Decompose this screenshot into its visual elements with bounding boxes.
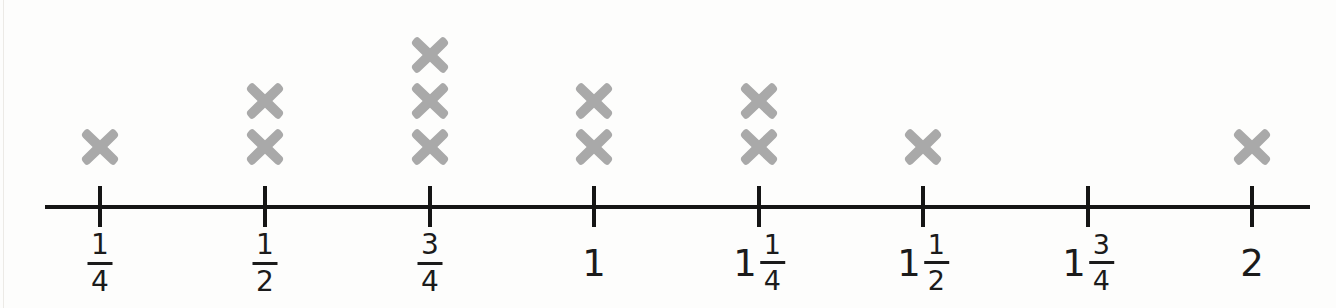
axis-tick-one-and-one-quarter — [757, 186, 761, 227]
fraction-denominator: 4 — [762, 266, 783, 294]
axis-label-one-and-one-quarter: 114 — [733, 231, 785, 294]
data-point-x-icon — [246, 82, 284, 120]
fraction-bar — [1089, 261, 1114, 264]
axis-label-three-quarters: 34 — [418, 231, 443, 296]
axis-label-one-quarter: 14 — [88, 231, 113, 296]
fraction-denominator: 4 — [419, 267, 441, 296]
data-point-x-icon — [904, 128, 942, 166]
data-point-x-icon — [411, 128, 449, 166]
data-point-x-icon — [411, 36, 449, 74]
label-whole-part: 1 — [897, 231, 921, 282]
axis-label-one-half: 12 — [253, 231, 278, 296]
fraction-numerator: 3 — [1091, 231, 1112, 260]
fraction-numerator: 1 — [762, 231, 783, 260]
label-fraction-part: 34 — [418, 231, 443, 296]
data-point-x-icon — [740, 128, 778, 166]
label-fraction-part: 14 — [760, 231, 785, 294]
axis-tick-one-half — [263, 186, 267, 227]
fraction-numerator: 1 — [89, 231, 111, 261]
page-edge-artifact — [3, 0, 4, 308]
axis-tick-one-and-three-quarters — [1086, 186, 1090, 227]
number-line-axis — [45, 205, 1310, 209]
fraction-numerator: 1 — [926, 231, 947, 260]
axis-label-one-and-one-half: 112 — [897, 231, 949, 294]
fraction-bar — [760, 261, 785, 264]
fraction-numerator: 3 — [419, 231, 441, 261]
data-point-x-icon — [1233, 128, 1271, 166]
data-point-x-icon — [575, 128, 613, 166]
label-fraction-part: 34 — [1089, 231, 1114, 294]
label-whole-part: 1 — [582, 231, 606, 282]
axis-label-one: 1 — [582, 231, 606, 282]
axis-label-two: 2 — [1240, 231, 1264, 282]
axis-tick-one-quarter — [98, 186, 102, 227]
fraction-denominator: 4 — [1091, 266, 1112, 294]
data-point-x-icon — [411, 82, 449, 120]
fraction-numerator: 1 — [254, 231, 276, 261]
fraction-denominator: 2 — [254, 267, 276, 296]
fraction-denominator: 4 — [89, 267, 111, 296]
fraction-bar — [924, 261, 949, 264]
axis-label-one-and-three-quarters: 134 — [1062, 231, 1114, 294]
label-whole-part: 1 — [1062, 231, 1086, 282]
label-whole-part: 2 — [1240, 231, 1264, 282]
fraction-denominator: 2 — [926, 266, 947, 294]
data-point-x-icon — [246, 128, 284, 166]
data-point-x-icon — [740, 82, 778, 120]
label-whole-part: 1 — [733, 231, 757, 282]
label-fraction-part: 12 — [924, 231, 949, 294]
data-point-x-icon — [575, 82, 613, 120]
axis-tick-one — [592, 186, 596, 227]
data-point-x-icon — [81, 128, 119, 166]
label-fraction-part: 14 — [88, 231, 113, 296]
axis-tick-two — [1250, 186, 1254, 227]
axis-tick-one-and-one-half — [921, 186, 925, 227]
line-plot-figure: 14123411141121342 — [0, 0, 1336, 308]
axis-tick-three-quarters — [428, 186, 432, 227]
label-fraction-part: 12 — [253, 231, 278, 296]
